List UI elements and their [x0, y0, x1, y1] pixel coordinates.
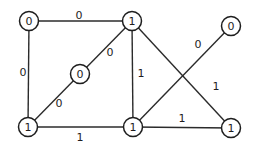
edge-label: 0: [195, 38, 202, 51]
edge-label: 1: [179, 112, 186, 125]
node-label: 0: [77, 68, 84, 81]
nodes-layer: 0100111: [19, 12, 241, 138]
edge-label: 0: [56, 97, 63, 110]
node-label: 1: [25, 121, 32, 134]
node-label: 0: [26, 15, 33, 28]
node-label: 1: [228, 122, 235, 135]
node-D: 0: [71, 65, 90, 84]
edge-D-F: [28, 74, 80, 127]
edge-B-G: [132, 21, 133, 127]
edge-labels-layer: 000011011: [20, 9, 220, 144]
graph-diagram: 000011011 0100111: [0, 0, 255, 149]
edge-A-F: [28, 21, 29, 127]
node-C: 0: [222, 17, 241, 36]
edge-label: 0: [76, 9, 83, 22]
edge-label: 1: [213, 80, 220, 93]
node-H: 1: [222, 119, 241, 138]
edge-label: 1: [138, 67, 145, 80]
node-G: 1: [124, 118, 143, 137]
edge-label: 0: [20, 66, 27, 79]
edge-G-H: [133, 127, 231, 128]
edge-label: 0: [107, 46, 114, 59]
node-label: 1: [129, 15, 136, 28]
node-F: 1: [19, 118, 38, 137]
edge-label: 1: [77, 131, 84, 144]
node-A: 0: [20, 12, 39, 31]
node-label: 0: [228, 20, 235, 33]
node-B: 1: [123, 12, 142, 31]
node-label: 1: [130, 121, 137, 134]
